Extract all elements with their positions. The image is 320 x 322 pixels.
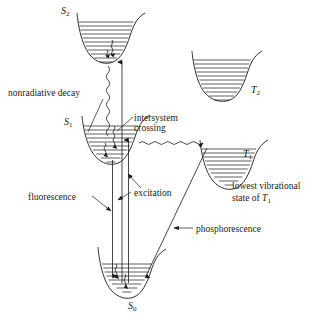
label-intersystem-crossing-line1: intersystem [134,113,178,123]
label-excitation: excitation [134,188,172,198]
phosphorescence-arrow-t1-to-s0 [146,148,207,276]
leader-fluorescence [92,196,111,211]
leader-excitation-to-s2 [128,174,141,188]
state-label-s2: S2 [61,5,70,18]
state-label-t2: T2 [251,84,261,97]
state-label-t1: T1 [243,148,253,161]
state-label-s0: S0 [128,300,137,313]
vib-relax-s2-a [111,40,113,56]
label-lowest-vibrational-line1: lowest vibrational [232,181,301,191]
leader-intersystem-crossing [117,117,133,131]
leader-excitation-to-s1 [118,192,131,200]
label-intersystem-crossing-line2: crossing [134,123,166,133]
vib-relax-s2-b [106,50,108,57]
label-lowest-vibrational-line2: state of T1 [232,193,271,205]
lowest-vib-prefix: state of [232,193,262,203]
label-fluorescence: fluorescence [28,192,76,202]
state-label-s1: S1 [64,116,73,129]
leader-nonradiative-decay [88,99,103,132]
jablonski-diagram: S2 T2 S1 [0,0,320,322]
nonradiative-decay-wavy-s2-to-s1 [106,66,109,136]
intersystem-crossing-wavy-s1-to-t1 [139,142,203,145]
lowest-vib-sub: 1 [267,197,271,205]
jablonski-svg-canvas: S2 T2 S1 [0,0,320,322]
vib-relax-s1-b [104,143,106,154]
vib-relax-s1-a [113,126,115,146]
label-phosphorescence: phosphorescence [196,224,261,234]
label-nonradiative-decay: nonradiative decay [8,88,80,98]
vib-relax-s0-a [115,264,117,276]
well-s2 [77,13,145,63]
